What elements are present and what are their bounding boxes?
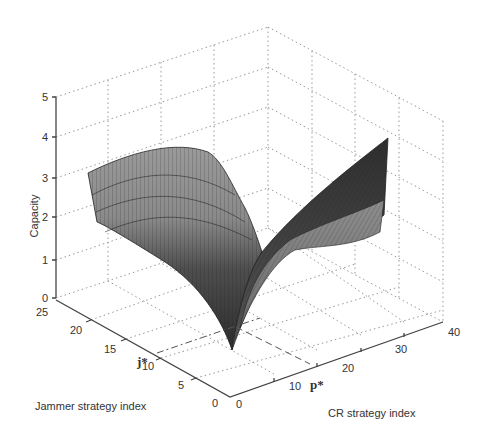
y-tick: 25 <box>36 306 48 318</box>
p-star-label: p* <box>310 377 324 392</box>
z-tick-labels: 5 4 3 2 1 0 <box>42 91 48 304</box>
z-tick: 0 <box>42 292 48 304</box>
p-star-line <box>236 327 310 364</box>
z-tick: 4 <box>42 131 48 143</box>
z-tick: 1 <box>42 254 48 266</box>
x-tick: 30 <box>395 343 407 355</box>
x-tick: 40 <box>448 326 460 338</box>
z-tick: 5 <box>42 91 48 103</box>
surface-left <box>88 147 262 350</box>
y-tick: 5 <box>178 379 184 391</box>
y-tick-labels: 25 20 15 10 5 0 <box>36 306 218 409</box>
x-tick: 20 <box>342 362 354 374</box>
x-axis-label: CR strategy index <box>328 407 416 419</box>
z-tick: 3 <box>42 172 48 184</box>
j-star-line <box>157 318 260 353</box>
x-tick: 0 <box>236 398 242 410</box>
x-tick-labels: 0 10 20 30 40 <box>236 326 460 410</box>
y-axis-label: Jammer strategy index <box>35 400 147 412</box>
z-tick: 2 <box>42 211 48 223</box>
surface-plot: 5 4 3 2 1 0 Capacity 25 20 15 10 5 0 j* … <box>0 0 486 442</box>
j-star-label: j* <box>136 354 148 369</box>
y-tick: 0 <box>212 397 218 409</box>
y-tick: 20 <box>70 324 82 336</box>
y-tick: 15 <box>104 343 116 355</box>
x-tick: 10 <box>289 380 301 392</box>
z-axis-label: Capacity <box>28 194 40 237</box>
